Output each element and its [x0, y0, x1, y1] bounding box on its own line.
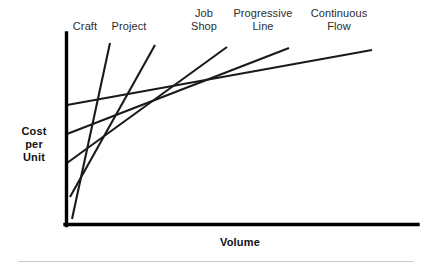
series-label-continuous-flow: Continuous Flow [303, 7, 375, 32]
x-axis-title: Volume [180, 236, 300, 249]
chart-plot-area [0, 0, 431, 267]
y-axis-title: Cost per Unit [10, 125, 58, 164]
series-label-job-shop: Job Shop [180, 7, 228, 32]
cost-volume-chart-figure: Craft Project Job Shop Progressive Line … [0, 0, 431, 267]
series-label-project: Project [101, 20, 157, 33]
series-label-progressive-line: Progressive Line [228, 7, 298, 32]
chart-background [0, 0, 431, 267]
